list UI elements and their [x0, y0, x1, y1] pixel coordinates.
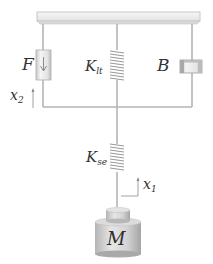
damper-b — [180, 60, 202, 73]
label-x1-base: x — [143, 176, 151, 192]
label-x2-sub: 2 — [18, 95, 24, 105]
x1-arrow — [121, 177, 140, 196]
label-damper: B — [157, 57, 170, 74]
label-x1-sub: 1 — [151, 184, 157, 194]
label-spring-klt-base: K — [85, 57, 96, 75]
label-x2: x2 — [10, 88, 24, 105]
diagram: F Klt B x2 Kse x1 M — [0, 0, 213, 264]
diagram-canvas — [0, 0, 213, 264]
label-force: F — [22, 56, 34, 73]
spring-kse — [110, 144, 124, 172]
x2-arrow — [32, 88, 35, 108]
label-spring-kse-sub: se — [97, 157, 107, 167]
label-x2-base: x — [10, 87, 18, 103]
label-x1: x1 — [143, 177, 157, 194]
label-spring-klt: Klt — [85, 59, 103, 76]
label-mass: M — [107, 230, 125, 248]
ground-bar — [37, 12, 200, 24]
label-spring-klt-sub: lt — [96, 66, 103, 76]
label-spring-kse: Kse — [86, 150, 107, 167]
spring-klt — [110, 50, 124, 80]
force-actuator — [36, 50, 51, 80]
label-spring-kse-base: K — [86, 148, 97, 166]
